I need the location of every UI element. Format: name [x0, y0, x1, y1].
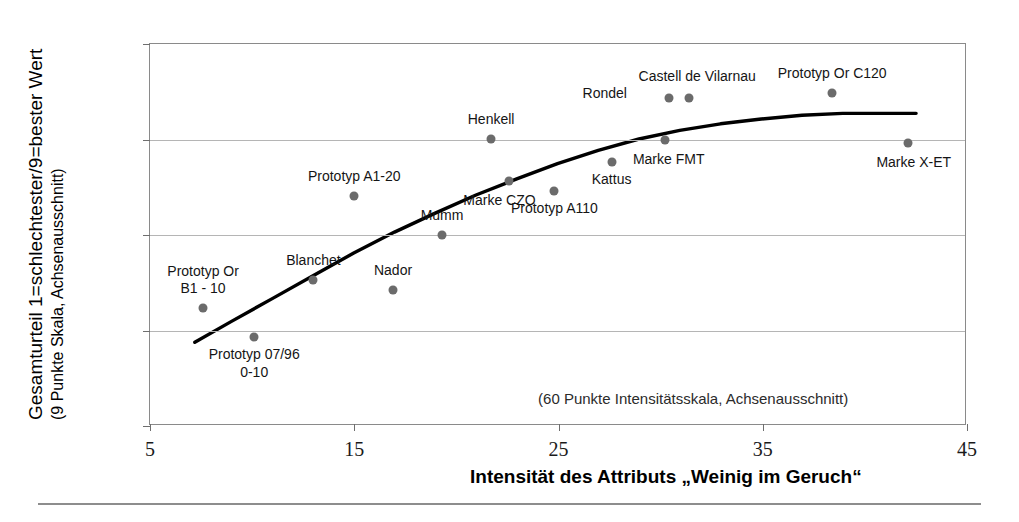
data-point[interactable] — [309, 275, 318, 284]
data-point-label: Prototyp A110 — [511, 200, 598, 218]
data-point[interactable] — [903, 139, 912, 148]
data-point-label: Prototyp 07/960-10 — [209, 346, 300, 381]
y-axis-title-main: Gesamturteil 1=schlechtester/9=bester We… — [25, 49, 47, 420]
x-tick-label: 5 — [145, 438, 155, 461]
x-tick-mark — [354, 424, 355, 431]
y-gridline — [150, 331, 965, 332]
data-point-label: Mumm — [421, 207, 464, 225]
y-gridline — [150, 235, 965, 236]
y-axis-title-sub: (9 Punkte Skala, Achsenausschnitt) — [49, 168, 67, 420]
data-point-label: Blanchet — [286, 252, 340, 270]
data-point-label: Kattus — [592, 171, 632, 189]
data-point[interactable] — [685, 94, 694, 103]
data-point-label: Marke FMT — [633, 151, 705, 169]
x-tick-label: 45 — [957, 438, 977, 461]
y-tick-mark — [143, 140, 150, 141]
x-tick-label: 25 — [549, 438, 569, 461]
data-point[interactable] — [199, 303, 208, 312]
data-point[interactable] — [438, 231, 447, 240]
x-tick-mark — [763, 424, 764, 431]
x-tick-mark — [150, 424, 151, 431]
axis-range-note: (60 Punkte Intensitätsskala, Achsenaussc… — [538, 390, 848, 407]
data-point-label: Henkell — [468, 111, 515, 129]
x-tick-label: 15 — [344, 438, 364, 461]
data-point[interactable] — [607, 158, 616, 167]
x-tick-mark — [967, 424, 968, 431]
y-tick-mark — [143, 235, 150, 236]
chart-figure: Gesamturteil 1=schlechtester/9=bester We… — [0, 0, 1019, 522]
data-point-label: Castell de Vilarnau — [639, 68, 756, 86]
x-tick-mark — [559, 424, 560, 431]
data-point[interactable] — [550, 187, 559, 196]
data-point[interactable] — [250, 333, 259, 342]
x-tick-label: 35 — [753, 438, 773, 461]
data-point-label: Prototyp Or C120 — [778, 65, 887, 83]
y-tick-mark — [143, 331, 150, 332]
y-axis-title-group: Gesamturteil 1=schlechtester/9=bester We… — [0, 0, 60, 440]
y-tick-mark — [143, 426, 150, 427]
data-point[interactable] — [664, 94, 673, 103]
plot-area: 3.04.05.06.07.0515253545(60 Punkte Inten… — [149, 43, 966, 425]
y-tick-mark — [143, 44, 150, 45]
y-gridline — [150, 140, 965, 141]
data-point-label: Prototyp OrB1 - 10 — [167, 263, 239, 298]
data-point[interactable] — [660, 136, 669, 145]
data-point[interactable] — [505, 176, 514, 185]
data-point-label: Rondel — [583, 85, 627, 103]
data-point[interactable] — [828, 88, 837, 97]
data-point[interactable] — [350, 191, 359, 200]
footer-divider — [38, 503, 981, 505]
trend-line — [195, 113, 916, 342]
data-point[interactable] — [487, 134, 496, 143]
data-point[interactable] — [389, 286, 398, 295]
data-point-label: Prototyp A1-20 — [308, 168, 401, 186]
data-point-label: Marke X-ET — [876, 154, 951, 172]
data-point-label: Nador — [374, 262, 412, 280]
x-axis-title: Intensität des Attributs „Weinig im Geru… — [470, 466, 862, 488]
